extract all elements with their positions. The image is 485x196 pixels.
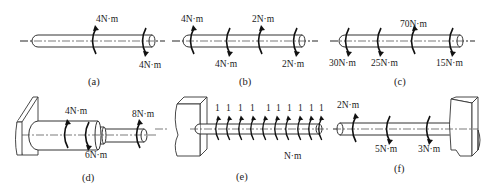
torque-label: 15N·m: [436, 58, 464, 68]
torque-value: 1: [238, 103, 243, 113]
torque-label: 25N·m: [371, 58, 399, 68]
panel-caption: (b): [239, 76, 252, 88]
torque-label: 2N·m: [252, 14, 275, 24]
torque-value: 1: [319, 103, 324, 113]
torque-value: 1: [276, 103, 281, 113]
panel-caption: (c): [394, 76, 406, 88]
torque-label: 6N·m: [85, 150, 108, 160]
torque-label: 4N·m: [65, 106, 88, 116]
torque-value: 1: [226, 103, 231, 113]
torque-label: 70N·m: [400, 19, 428, 29]
torque-label: 4N·m: [139, 60, 162, 70]
panel-f: 2N·m 5N·m 3N·m (f): [333, 97, 480, 175]
torque-label: 8N·m: [132, 109, 155, 119]
panel-a: 4N·m 4N·m (a): [20, 14, 165, 88]
torque-value: 1: [215, 103, 220, 113]
torsion-shaft-diagrams: 4N·m 4N·m (a) 4N·m 4N·m 2N·m 2N·m (b) 30…: [0, 0, 485, 196]
panel-caption: (f): [394, 163, 405, 175]
panel-d: 4N·m 6N·m 8N·m (d): [16, 97, 159, 184]
torque-label: 2N·m: [282, 59, 305, 69]
torque-label: 5N·m: [375, 144, 398, 154]
torque-value: 1: [287, 103, 292, 113]
torque-label: 4N·m: [181, 14, 204, 24]
torque-label: 2N·m: [337, 100, 360, 110]
panel-b: 4N·m 4N·m 2N·m 2N·m (b): [172, 14, 318, 88]
torque-label: 30N·m: [329, 58, 357, 68]
torque-value: 1: [266, 103, 271, 113]
unit-label: N·m: [284, 151, 302, 161]
panel-caption: (a): [88, 76, 100, 88]
torque-value: 1: [309, 103, 314, 113]
torque-label: 3N·m: [418, 144, 441, 154]
panel-caption: (e): [236, 171, 248, 183]
torque-value: 1: [298, 103, 303, 113]
torque-value: 1: [250, 103, 255, 113]
panel-e: 1 1 1 1 1 1 1 1 1 1 N·m (e): [155, 97, 330, 183]
torque-label: 4N·m: [215, 59, 238, 69]
panel-c: 30N·m 25N·m 70N·m 15N·m (c): [329, 19, 475, 88]
panel-caption: (d): [82, 172, 95, 184]
torque-label: 4N·m: [96, 14, 119, 24]
